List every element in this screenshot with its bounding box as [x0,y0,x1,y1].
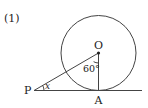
problem-number: (1) [4,12,20,25]
label-a: A [94,94,104,107]
angle-arc-x [43,86,44,91]
angle-label-60: 60° [83,63,100,74]
angle-label-x: x [45,81,50,91]
geometry-figure: (1) O A P 60° x [0,0,148,108]
label-p: P [24,84,32,97]
label-o: O [94,39,103,52]
